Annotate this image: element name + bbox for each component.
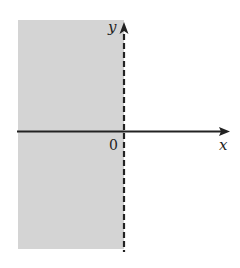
- origin-label: 0: [109, 138, 118, 152]
- y-axis-label: y: [108, 20, 116, 35]
- shaded-region: [18, 20, 124, 249]
- x-axis-label: x: [219, 138, 227, 153]
- inequality-graph: [0, 0, 240, 268]
